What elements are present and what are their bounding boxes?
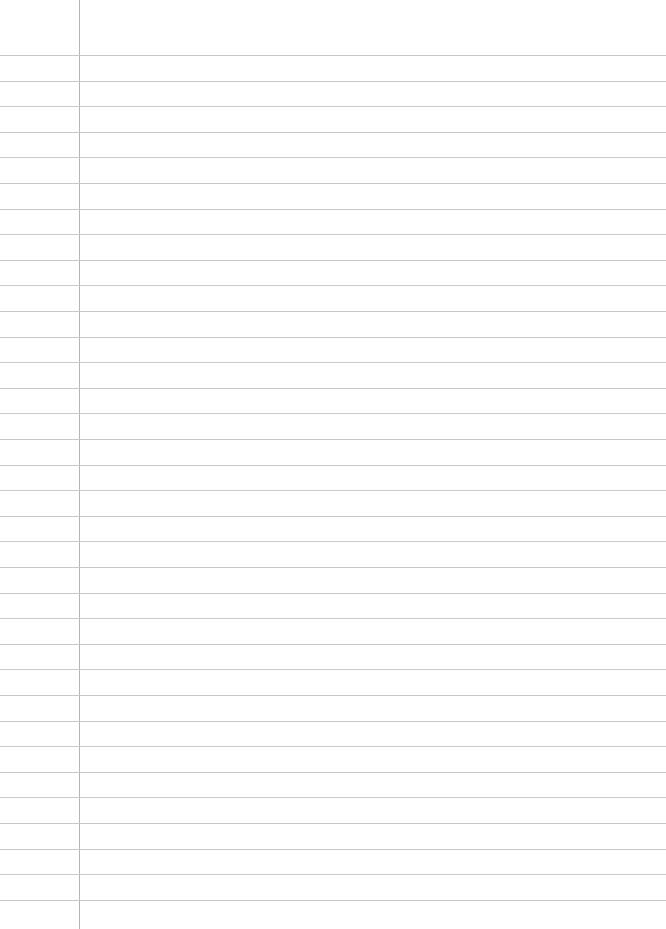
ruled-line xyxy=(0,260,666,261)
ruled-line xyxy=(0,900,666,901)
ruled-line xyxy=(0,669,666,670)
ruled-line xyxy=(0,567,666,568)
ruled-line xyxy=(0,132,666,133)
ruled-line xyxy=(0,183,666,184)
ruled-line xyxy=(0,516,666,517)
ruled-line xyxy=(0,695,666,696)
ruled-line xyxy=(0,772,666,773)
ruled-line xyxy=(0,823,666,824)
ruled-line xyxy=(0,285,666,286)
ruled-line xyxy=(0,439,666,440)
ruled-line xyxy=(0,413,666,414)
ruled-line xyxy=(0,362,666,363)
ruled-line xyxy=(0,541,666,542)
ruled-line xyxy=(0,337,666,338)
ruled-line xyxy=(0,746,666,747)
ruled-line xyxy=(0,465,666,466)
ruled-line xyxy=(0,874,666,875)
ruled-line xyxy=(0,81,666,82)
ruled-line xyxy=(0,721,666,722)
ruled-line xyxy=(0,209,666,210)
ruled-line xyxy=(0,388,666,389)
ruled-line xyxy=(0,490,666,491)
ruled-line xyxy=(0,618,666,619)
ruled-line xyxy=(0,234,666,235)
ruled-line xyxy=(0,55,666,56)
ruled-line xyxy=(0,644,666,645)
ruled-line xyxy=(0,157,666,158)
ruled-line xyxy=(0,106,666,107)
ruled-line xyxy=(0,593,666,594)
ruled-line xyxy=(0,311,666,312)
ruled-line xyxy=(0,849,666,850)
ruled-line xyxy=(0,797,666,798)
